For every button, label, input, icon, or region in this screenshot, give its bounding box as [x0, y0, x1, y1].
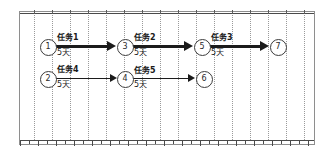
edge-task-duration: 5天 — [57, 48, 70, 57]
top-tick — [142, 10, 143, 14]
edge-arrowhead — [260, 41, 269, 51]
edge-arrowhead — [184, 41, 193, 51]
edge-line — [133, 78, 190, 79]
network-node-1[interactable]: 1 — [40, 39, 57, 56]
network-node-5[interactable]: 5 — [194, 39, 211, 56]
ruler-tick — [218, 141, 219, 146]
ruler-tick — [245, 141, 246, 144]
ruler-tick — [281, 141, 282, 144]
edge-task-duration: 5天 — [57, 80, 70, 89]
top-tick — [124, 10, 125, 14]
ruler-tick — [92, 141, 93, 146]
ruler-tick — [56, 141, 57, 146]
edge-task-name: 任务3 — [211, 33, 233, 42]
grid-line — [286, 13, 287, 140]
ruler-tick — [155, 141, 156, 144]
ruler-tick — [83, 141, 84, 144]
ruler-tick — [254, 141, 255, 146]
network-node-3[interactable]: 3 — [117, 39, 134, 56]
ruler-tick — [299, 141, 300, 144]
grid-line — [88, 13, 89, 140]
ruler-tick — [209, 141, 210, 144]
network-diagram-canvas: 任务15天任务25天任务35天任务45天任务55天 1357246 — [0, 0, 330, 158]
network-node-7[interactable]: 7 — [270, 39, 287, 56]
ruler-tick — [227, 141, 228, 144]
edge-task-name: 任务1 — [57, 33, 79, 42]
edge-task-name: 任务5 — [134, 66, 156, 75]
ruler-tick — [200, 141, 201, 146]
grid-line — [304, 13, 305, 140]
ruler-tick — [20, 141, 21, 146]
ruler-tick — [65, 141, 66, 144]
grid-line — [160, 13, 161, 140]
top-tick — [160, 10, 161, 14]
top-rule — [20, 13, 314, 14]
edge-arrowhead — [110, 74, 117, 82]
top-tick — [196, 10, 197, 14]
top-tick — [106, 10, 107, 14]
ruler-tick — [272, 141, 273, 146]
edge-line — [56, 78, 112, 79]
top-tick — [178, 10, 179, 14]
edge-arrowhead — [107, 41, 116, 51]
ruler-tick — [263, 141, 264, 144]
ruler-tick — [191, 141, 192, 144]
network-node-4[interactable]: 4 — [117, 71, 134, 88]
ruler-tick — [47, 141, 48, 144]
ruler-tick — [164, 141, 165, 146]
ruler-tick — [236, 141, 237, 146]
ruler-tick — [146, 141, 147, 146]
grid-line — [106, 13, 107, 140]
ruler-tick — [110, 141, 111, 146]
edge-task-duration: 5天 — [134, 48, 147, 57]
network-node-2[interactable]: 2 — [40, 71, 57, 88]
grid-line — [250, 13, 251, 140]
ruler-tick — [74, 141, 75, 146]
edge-task-name: 任务2 — [134, 33, 156, 42]
top-tick — [304, 10, 305, 14]
ruler-tick — [38, 141, 39, 146]
edge-task-name: 任务4 — [57, 65, 79, 74]
top-tick — [34, 10, 35, 14]
top-tick — [214, 10, 215, 14]
top-tick — [286, 10, 287, 14]
edge-task-duration: 5天 — [211, 48, 224, 57]
top-tick — [52, 10, 53, 14]
top-tick — [70, 10, 71, 14]
edge-arrowhead — [188, 74, 195, 82]
ruler-tick — [128, 141, 129, 146]
ruler-tick — [29, 141, 30, 144]
ruler-tick — [119, 141, 120, 144]
top-tick — [250, 10, 251, 14]
ruler-tick — [101, 141, 102, 144]
top-tick — [268, 10, 269, 14]
ruler-tick — [182, 141, 183, 146]
ruler-tick — [290, 141, 291, 146]
top-tick — [88, 10, 89, 14]
top-tick — [232, 10, 233, 14]
edge-task-duration: 5天 — [134, 80, 147, 89]
grid-line — [268, 13, 269, 140]
ruler-tick — [308, 141, 309, 146]
grid-line — [178, 13, 179, 140]
ruler-tick — [173, 141, 174, 144]
network-node-6[interactable]: 6 — [196, 71, 213, 88]
grid-line — [34, 13, 35, 140]
ruler-tick — [137, 141, 138, 144]
